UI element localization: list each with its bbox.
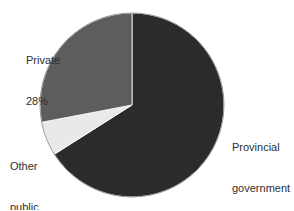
slice-label-other-public-name-line1: Other [10, 160, 39, 174]
pie-slices [40, 13, 224, 197]
slice-label-provincial-government: Provincial government 66% [232, 114, 290, 210]
pie-chart-figure: Private 28% Other public 6% Provincial g… [0, 0, 294, 210]
slice-label-private-value: 28% [26, 95, 60, 109]
slice-label-other-public-name-line2: public [10, 201, 39, 211]
slice-label-other-public: Other public 6% [10, 133, 39, 210]
slice-label-provincial-government-name-line2: government [232, 182, 290, 196]
slice-label-private: Private 28% [26, 27, 60, 135]
slice-label-provincial-government-name-line1: Provincial [232, 141, 290, 155]
slice-label-private-name: Private [26, 54, 60, 68]
